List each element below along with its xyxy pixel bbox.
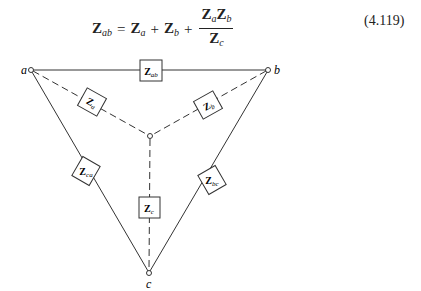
impedance-za: Za [78,88,107,116]
node-center [148,134,153,139]
node-b [266,68,271,73]
wye-edges [33,71,266,270]
impedance-zb: Zb [194,91,223,119]
node-a [29,68,34,73]
impedance-zc: Zc [139,197,160,218]
node-label-a: a [21,63,27,77]
impedance-zab: Zab [140,60,162,81]
node-label-b: b [274,63,280,77]
node-c [147,271,152,276]
impedance-zbc: Zbc [198,165,226,194]
delta-wye-diagram: Zab Za Zb Zca Zbc Zc a b c [0,0,421,291]
node-label-c: c [146,277,152,291]
